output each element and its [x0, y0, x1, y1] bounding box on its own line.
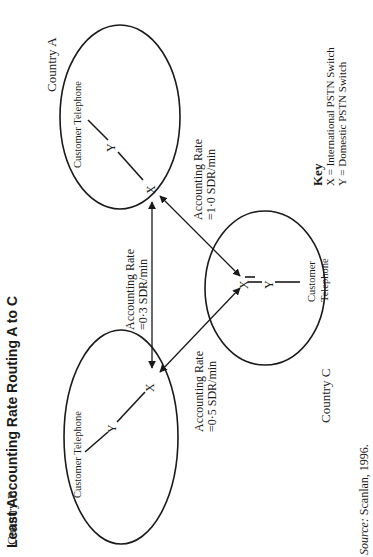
- country-a-x-switch: X: [144, 185, 159, 194]
- country-b-customer-label: Customer Telephone: [72, 411, 83, 498]
- link-a-b-label: Accounting Rate =0·3 SDR/min: [124, 249, 150, 330]
- country-a-line-y-x: [118, 152, 143, 180]
- country-c-y-switch: Y: [262, 280, 277, 289]
- country-a-label: Country A: [44, 37, 60, 92]
- country-a-y-switch: Y: [104, 143, 119, 152]
- country-a-line-customer-y: [88, 120, 108, 140]
- source-text: Scanlan, 1996.: [357, 444, 371, 518]
- link-a-c-label: Accounting Rate =1·0 SDR/min: [192, 139, 218, 220]
- country-b-y-switch: Y: [105, 424, 120, 433]
- legend: Key X = International PSTN Switch Y = Do…: [312, 47, 348, 186]
- country-b-line-customer-y: [85, 432, 108, 452]
- country-c-customer-label: Customer Telephone: [305, 258, 331, 302]
- legend-item-x: X = International PSTN Switch: [324, 47, 336, 186]
- link-b-c-label-line2: =0·5 SDR/min: [206, 351, 219, 432]
- country-b-label: Country B: [4, 490, 20, 545]
- source-note: Source: Scanlan, 1996.: [357, 444, 372, 555]
- country-a-customer-label: Customer Telephone: [72, 81, 83, 168]
- link-a-b-label-line2: =0·3 SDR/min: [137, 249, 150, 330]
- country-c-label: Country C: [318, 368, 334, 423]
- source-prefix: Source:: [357, 518, 371, 555]
- legend-title: Key: [312, 47, 324, 186]
- country-c-customer-line1: Customer: [305, 258, 318, 302]
- legend-item-y: Y = Domestic PSTN Switch: [336, 47, 348, 186]
- link-b-c-label: Accounting Rate =0·5 SDR/min: [193, 351, 219, 432]
- country-c-x-switch: X: [237, 280, 252, 289]
- country-c-customer-line2: Telephone: [318, 258, 331, 302]
- country-b-line-y-x: [117, 392, 145, 422]
- country-b-x-switch: X: [143, 383, 158, 392]
- link-a-c-label-line2: =1·0 SDR/min: [205, 139, 218, 220]
